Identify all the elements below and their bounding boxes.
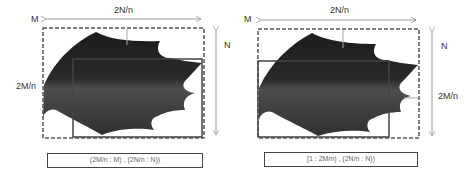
label-n: N bbox=[224, 40, 231, 50]
caption-box: (2M/n : M) , (2N/n : N)) bbox=[47, 153, 203, 168]
label-side: 2M/n bbox=[16, 81, 36, 91]
leaf-image bbox=[259, 33, 418, 136]
caption-box: [1 : 2M/n) , (2N/n : N)) bbox=[264, 152, 418, 167]
leaf-image bbox=[43, 32, 202, 135]
label-n: N bbox=[441, 41, 448, 51]
label-side: 2M/n bbox=[438, 91, 458, 101]
label-m: M bbox=[31, 14, 39, 24]
label-width: 2N/n bbox=[330, 5, 349, 15]
panel-left: M 2N/n N 2M/n (2M/n : M) , (2N/n : N)) bbox=[0, 0, 236, 181]
label-m: M bbox=[244, 14, 252, 24]
panel-right: M 2N/n N 2M/n [1 : 2M/n) , (2N/n : N)) bbox=[236, 0, 473, 181]
label-width: 2N/n bbox=[114, 5, 133, 15]
